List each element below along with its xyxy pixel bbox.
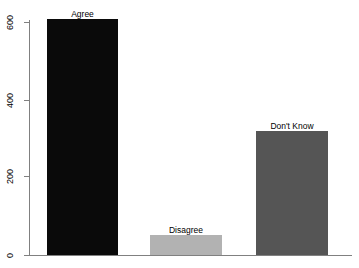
bar-label-dont-know: Don't Know xyxy=(248,121,336,131)
bar-dont-know xyxy=(256,131,328,255)
y-tick-label-400-text: 400 xyxy=(7,93,16,108)
bar-chart: 600 400 200 0 Agree Disagree Don't Know xyxy=(0,0,359,268)
bar-disagree xyxy=(150,235,222,255)
y-tick-label-200-text: 200 xyxy=(7,169,16,184)
x-axis-line xyxy=(29,255,352,256)
y-tick-mark-600 xyxy=(24,22,29,23)
y-tick-mark-400 xyxy=(24,100,29,101)
bar-label-agree: Agree xyxy=(47,9,118,19)
y-tick-label-400: 400 xyxy=(0,96,22,105)
y-axis-line xyxy=(29,20,30,256)
y-tick-label-0-text: 0 xyxy=(6,253,15,258)
bar-agree xyxy=(47,19,118,255)
y-tick-label-600: 600 xyxy=(0,18,22,27)
y-tick-mark-200 xyxy=(24,176,29,177)
bar-label-disagree: Disagree xyxy=(150,225,222,235)
y-tick-label-0: 0 xyxy=(0,251,22,260)
y-tick-label-200: 200 xyxy=(0,172,22,181)
y-tick-label-600-text: 600 xyxy=(7,15,16,30)
